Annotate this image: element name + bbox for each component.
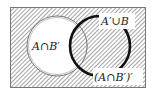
label-complement-a-and-not-b: (A∩B′)′ bbox=[94, 71, 133, 84]
label-a-and-not-b: A∩B′ bbox=[31, 40, 60, 53]
label-not-a-or-b: A′∪B bbox=[100, 15, 129, 28]
venn-diagram: A∩B′ A′∪B (A∩B′)′ bbox=[0, 0, 154, 99]
